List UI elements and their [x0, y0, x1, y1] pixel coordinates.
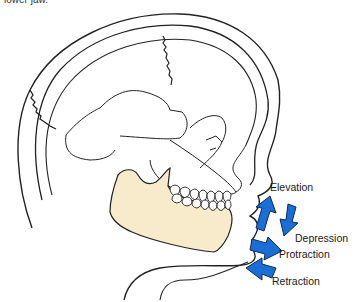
- skull-inner: [46, 39, 256, 195]
- lambdoid-suture: [30, 90, 56, 129]
- label-protraction: Protraction: [279, 248, 330, 260]
- coronal-suture: [163, 36, 172, 85]
- orbit-region: [190, 116, 226, 168]
- temporal-bone: [66, 91, 187, 160]
- head-outline: [18, 14, 280, 300]
- label-retraction: Retraction: [272, 275, 320, 287]
- label-elevation: Elevation: [270, 181, 313, 193]
- neck-line: [160, 262, 248, 300]
- nasal-bone: [233, 145, 246, 192]
- skull-outer: [36, 25, 269, 200]
- label-depression: Depression: [295, 232, 348, 244]
